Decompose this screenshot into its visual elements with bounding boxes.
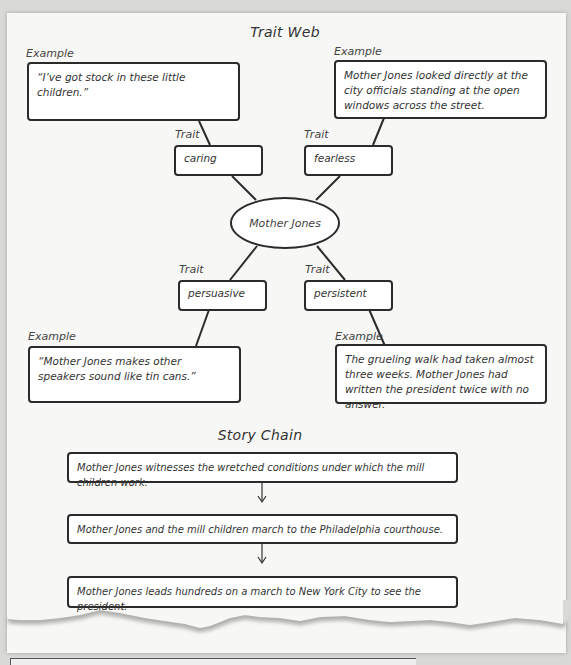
story-event-3: Mother Jones leads hundreds on a march t… — [67, 576, 458, 608]
trait-box-persuasive: persuasive — [178, 280, 267, 311]
trait-label: Trait — [175, 128, 200, 141]
example-label: Example — [28, 330, 76, 343]
event-text: Mother Jones and the mill children march… — [77, 524, 443, 535]
example-text: Mother Jones looked directly at the city… — [344, 69, 528, 111]
example-box-caring: “I’ve got stock in these little children… — [27, 62, 240, 121]
trait-box-caring: caring — [174, 145, 263, 176]
bottom-box-edge — [10, 658, 416, 665]
example-box-persuasive: “Mother Jones makes other speakers sound… — [28, 346, 241, 403]
trait-box-persistent: persistent — [304, 280, 393, 311]
example-label: Example — [335, 330, 383, 343]
center-ellipse: Mother Jones — [230, 197, 340, 249]
trait-box-fearless: fearless — [304, 145, 393, 176]
trait-text: persistent — [314, 287, 367, 299]
example-text: “Mother Jones makes other speakers sound… — [38, 355, 196, 382]
trait-text: fearless — [314, 152, 355, 164]
story-event-2: Mother Jones and the mill children march… — [67, 514, 458, 544]
trait-label: Trait — [304, 128, 329, 141]
trait-text: caring — [184, 152, 217, 164]
trait-text: persuasive — [188, 287, 245, 299]
example-label: Example — [334, 45, 382, 58]
example-text: “I’ve got stock in these little children… — [37, 71, 186, 98]
example-box-fearless: Mother Jones looked directly at the city… — [334, 60, 547, 119]
trait-web-title: Trait Web — [235, 24, 335, 40]
center-text: Mother Jones — [249, 217, 321, 230]
example-box-persistent: The grueling walk had taken almost three… — [335, 344, 547, 404]
example-text: The grueling walk had taken almost three… — [345, 353, 534, 410]
example-label: Example — [26, 47, 74, 60]
story-event-1: Mother Jones witnesses the wretched cond… — [67, 452, 458, 483]
story-chain-title: Story Chain — [210, 427, 310, 443]
trait-label: Trait — [305, 263, 330, 276]
trait-label: Trait — [179, 263, 204, 276]
